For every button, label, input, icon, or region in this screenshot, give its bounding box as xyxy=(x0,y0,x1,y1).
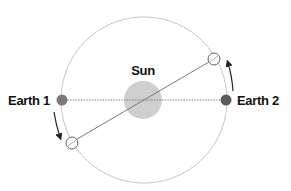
earth2-icon xyxy=(221,95,232,106)
earth2-label: Earth 2 xyxy=(237,93,279,108)
earth1-label: Earth 1 xyxy=(8,93,50,108)
earth1-icon xyxy=(57,95,68,106)
orbit-diagram: Sun Earth 1 Earth 2 xyxy=(0,0,291,191)
sun-label: Sun xyxy=(131,63,155,78)
arrow-up-icon xyxy=(228,63,233,91)
arrow-down-icon xyxy=(54,112,60,137)
